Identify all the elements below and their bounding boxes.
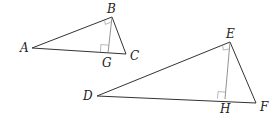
vertex-label-e: E (226, 28, 235, 40)
vertex-label-g: G (102, 57, 112, 69)
right-angle-mark-b (105, 20, 111, 25)
right-angle-mark-e (223, 45, 230, 50)
right-angle-mark-g (101, 45, 109, 53)
vertex-label-h: H (220, 103, 230, 115)
vertex-label-b: B (107, 3, 116, 15)
triangle-def (97, 42, 256, 103)
vertex-label-d: D (83, 90, 93, 102)
vertex-label-c: C (130, 50, 139, 62)
vertex-label-a: A (20, 42, 29, 54)
right-angle-mark-h (218, 92, 226, 99)
altitude-eh (225, 42, 230, 99)
diagram-canvas: A B C G D E F H (0, 0, 280, 126)
triangle-abc (32, 17, 126, 54)
vertex-label-f: F (260, 101, 268, 113)
triangles-figure (0, 0, 280, 126)
